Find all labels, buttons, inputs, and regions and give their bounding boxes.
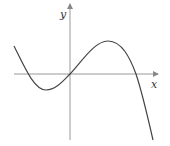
function-curve — [14, 41, 153, 140]
y-axis-label: y — [59, 8, 67, 21]
function-graph: y x — [0, 0, 170, 146]
x-axis-label: x — [151, 78, 158, 91]
